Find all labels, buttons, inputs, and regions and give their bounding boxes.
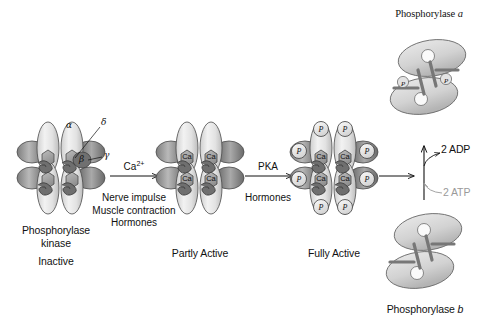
calcium-label: Ca [182,151,191,164]
arrow1-above-label: Ca2+ [124,160,145,172]
phosphorylase-b-title-text: Phosphorylase b [387,303,464,315]
arrow2-above-label: PKA [258,161,278,172]
calcium-label: Ca [340,173,349,186]
arrow2-below-label: Hormones [245,192,291,203]
phosphorylase-a-title-text: Phosphorylase a [395,8,463,19]
calcium-label: Ca [182,173,191,186]
complex-2-state: Partly Active [172,247,228,260]
phosphate-label: P [319,124,324,137]
phosphate-label: P [343,202,348,215]
phosphorylase-a-title: Phosphorylase a [395,8,463,21]
phosphorylase-b-title: Phosphorylase b [387,303,464,316]
calcium-label: Ca [206,151,215,164]
stimulus-line: Muscle contraction [92,205,175,218]
atp-label: 2 ATP [443,186,470,199]
stimulus-line: Nerve impulse [92,192,175,205]
subunit-label-beta: β [79,154,84,164]
complex-1-name-line1: Phosphorylase [22,224,90,237]
calcium-label: Ca [206,173,215,186]
phosphate-tag: P [444,75,448,88]
phosphate-label: P [365,146,370,159]
adp-label: 2 ADP [441,143,470,156]
phosphate-label: P [297,174,302,187]
complex-1-state: Inactive [38,255,73,268]
stimulus-line: Hormones [92,217,175,230]
subunit-label-alpha: α [66,120,72,130]
calcium-label: Ca [316,173,325,186]
calcium-label: Ca [340,151,349,164]
complex-3-state: Fully Active [308,247,360,260]
calcium-ion-text: Ca [124,161,137,172]
subunit-label-delta: δ [101,117,106,127]
phosphorylase-b-structure [384,209,464,292]
phosphate-tag: P [401,78,405,91]
phosphorylase-a-structure [388,35,468,118]
phosphate-label: P [365,174,370,187]
calcium-ion-charge: 2+ [136,160,144,167]
arrow1-below-label: Nerve impulse Muscle contraction Hormone… [92,192,175,230]
calcium-label: Ca [316,151,325,164]
complex-fully-active [290,122,378,215]
complex-1-name-line2: kinase [22,237,90,250]
complex-1-name: Phosphorylase kinase [22,224,90,249]
phosphorylase-activation-diagram: α δ β γ Ca Ca Ca Ca Ca Ca Ca Ca P P P P … [0,0,485,324]
diagram-canvas [0,0,485,324]
subunit-label-gamma: γ [104,150,109,160]
phosphate-label: P [297,146,302,159]
phosphate-label: P [343,124,348,137]
conversion-arrow-b-to-a [424,146,442,200]
phosphate-label: P [319,202,324,215]
